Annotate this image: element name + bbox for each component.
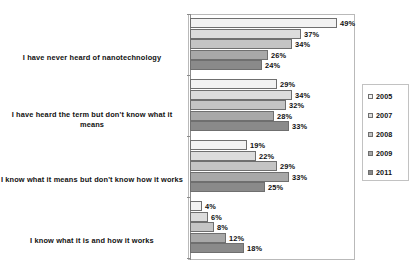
legend-swatch-icon bbox=[368, 94, 373, 99]
bar-fill bbox=[190, 212, 208, 222]
nanotechnology-awareness-bar-chart: I have never heard of nanotechnology I h… bbox=[0, 0, 420, 270]
legend: 2005 2007 2008 2009 2011 bbox=[362, 84, 409, 181]
legend-label: 2009 bbox=[376, 149, 392, 158]
bar-2009-2: 28% bbox=[190, 111, 355, 121]
legend-label: 2007 bbox=[376, 111, 392, 120]
bar-fill bbox=[190, 39, 292, 49]
bar-fill bbox=[190, 79, 277, 89]
bar-value-label: 26% bbox=[271, 50, 286, 59]
bar-2005-4: 4% bbox=[190, 201, 355, 211]
bar-value-label: 28% bbox=[277, 111, 292, 120]
bar-2008-2: 32% bbox=[190, 100, 355, 110]
bar-value-label: 34% bbox=[295, 90, 310, 99]
bar-value-label: 34% bbox=[295, 40, 310, 49]
bar-value-label: 8% bbox=[217, 223, 228, 232]
bar-value-label: 22% bbox=[259, 151, 274, 160]
legend-item-2009[interactable]: 2009 bbox=[368, 149, 392, 158]
bar-2011-2: 33% bbox=[190, 121, 355, 131]
legend-label: 2005 bbox=[376, 92, 392, 101]
category-label: I know what it means but don't know how … bbox=[0, 175, 184, 185]
bar-fill bbox=[190, 201, 202, 211]
bar-fill bbox=[190, 18, 337, 28]
bar-fill bbox=[190, 111, 274, 121]
bar-2007-3: 22% bbox=[190, 151, 355, 161]
bar-fill bbox=[190, 50, 268, 60]
bar-value-label: 24% bbox=[265, 61, 280, 70]
bar-value-label: 12% bbox=[229, 233, 244, 242]
bar-fill bbox=[190, 151, 256, 161]
legend-item-2007[interactable]: 2007 bbox=[368, 111, 392, 120]
bar-2005-2: 29% bbox=[190, 79, 355, 89]
legend-swatch-icon bbox=[368, 170, 373, 175]
bar-value-label: 4% bbox=[205, 202, 216, 211]
bar-2005-1: 49% bbox=[190, 18, 355, 28]
bar-fill bbox=[190, 29, 301, 39]
bar-fill bbox=[190, 161, 277, 171]
bar-fill bbox=[190, 100, 286, 110]
bar-value-label: 49% bbox=[340, 19, 355, 28]
category-label: I have never heard of nanotechnology bbox=[0, 53, 184, 63]
bar-fill bbox=[190, 233, 226, 243]
bar-value-label: 25% bbox=[268, 183, 283, 192]
bar-value-label: 37% bbox=[304, 29, 319, 38]
bar-value-label: 33% bbox=[292, 122, 307, 131]
bar-value-label: 18% bbox=[247, 244, 262, 253]
legend-item-2008[interactable]: 2008 bbox=[368, 130, 392, 139]
bar-2007-2: 34% bbox=[190, 90, 355, 100]
bar-2007-4: 6% bbox=[190, 212, 355, 222]
legend-swatch-icon bbox=[368, 132, 373, 137]
bar-fill bbox=[190, 90, 292, 100]
bar-value-label: 29% bbox=[280, 162, 295, 171]
bar-2008-1: 34% bbox=[190, 39, 355, 49]
legend-item-2011[interactable]: 2011 bbox=[368, 168, 392, 177]
bar-2011-4: 18% bbox=[190, 243, 355, 253]
legend-label: 2011 bbox=[376, 168, 392, 177]
bar-value-label: 6% bbox=[211, 212, 222, 221]
legend-label: 2008 bbox=[376, 130, 392, 139]
category-label: I know what it is and how it works bbox=[0, 236, 184, 246]
bar-fill bbox=[190, 140, 247, 150]
bar-fill bbox=[190, 243, 244, 253]
legend-swatch-icon bbox=[368, 113, 373, 118]
bar-value-label: 33% bbox=[292, 172, 307, 181]
bar-value-label: 19% bbox=[250, 141, 265, 150]
bar-fill bbox=[190, 121, 289, 131]
legend-swatch-icon bbox=[368, 151, 373, 156]
bar-series-layer: 49%37%34%26%24%29%34%32%28%33%19%22%29%3… bbox=[190, 14, 355, 260]
bar-fill bbox=[190, 60, 262, 70]
bar-fill bbox=[190, 222, 214, 232]
legend-item-2005[interactable]: 2005 bbox=[368, 92, 392, 101]
bar-value-label: 29% bbox=[280, 80, 295, 89]
bar-2005-3: 19% bbox=[190, 140, 355, 150]
category-axis-labels: I have never heard of nanotechnology I h… bbox=[0, 14, 186, 260]
bar-2009-4: 12% bbox=[190, 233, 355, 243]
bar-2007-1: 37% bbox=[190, 29, 355, 39]
bar-2011-1: 24% bbox=[190, 60, 355, 70]
bar-2008-3: 29% bbox=[190, 161, 355, 171]
bar-fill bbox=[190, 182, 265, 192]
bar-2011-3: 25% bbox=[190, 182, 355, 192]
bar-2009-3: 33% bbox=[190, 172, 355, 182]
bar-fill bbox=[190, 172, 289, 182]
category-label: I have heard the term but don't know wha… bbox=[0, 110, 184, 129]
bar-2009-1: 26% bbox=[190, 50, 355, 60]
bar-value-label: 32% bbox=[289, 101, 304, 110]
bar-2008-4: 8% bbox=[190, 222, 355, 232]
